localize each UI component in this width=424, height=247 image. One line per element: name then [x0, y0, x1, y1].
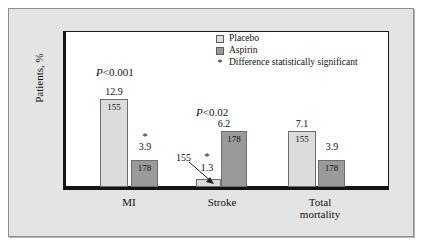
- legend-swatch-aspirin-icon: [216, 47, 224, 55]
- legend-label-aspirin: Aspirin: [229, 45, 258, 56]
- y-axis-line: [63, 31, 66, 189]
- x-tick-label-total-mortality: Total mortality: [292, 196, 348, 220]
- x-tick-label-mi: MI: [104, 196, 154, 209]
- x-tick-label-stroke: Stroke: [196, 196, 248, 209]
- legend-item-significance: * Difference statistically significant: [216, 57, 358, 68]
- legend-item-placebo: Placebo: [216, 33, 358, 44]
- x-tick-label-total-mortality-line1: Total: [292, 196, 348, 208]
- legend: Placebo Aspirin * Difference statistical…: [216, 33, 358, 69]
- y-axis-title: Patients, %: [33, 33, 45, 123]
- x-axis-baseline: [63, 186, 389, 190]
- legend-swatch-placebo-icon: [216, 35, 224, 43]
- chart-screenshot: Patients, % Placebo Aspirin * Difference…: [0, 0, 424, 247]
- legend-item-aspirin: Aspirin: [216, 45, 358, 56]
- x-tick-label-total-mortality-line2: mortality: [292, 208, 348, 220]
- asterisk-icon: *: [216, 59, 224, 67]
- legend-label-significance: Difference statistically significant: [229, 57, 358, 68]
- legend-label-placebo: Placebo: [229, 33, 259, 44]
